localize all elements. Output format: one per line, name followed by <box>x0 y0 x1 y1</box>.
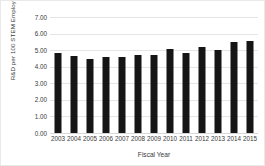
y-axis-tick-label: 3.00 <box>21 80 47 87</box>
bar-slot <box>194 17 210 133</box>
bar[interactable] <box>87 59 94 133</box>
bar[interactable] <box>71 56 78 133</box>
bar[interactable] <box>183 53 190 133</box>
chart-figure: R&D per 100 STEM Employees - DOI 0.001.0… <box>0 0 265 166</box>
bar[interactable] <box>135 55 142 133</box>
x-axis-title: Fiscal Year <box>50 151 258 158</box>
gridline <box>50 133 258 134</box>
bar[interactable] <box>103 57 110 133</box>
bar-slot <box>242 17 258 133</box>
bar-slot <box>66 17 82 133</box>
y-axis-tick-label: 4.00 <box>21 63 47 70</box>
x-axis-tick-label: 2010 <box>163 135 177 143</box>
x-axis-tick-label: 2015 <box>243 135 257 143</box>
x-axis-tick-label: 2014 <box>227 135 241 143</box>
bar-slot <box>226 17 242 133</box>
bar[interactable] <box>247 41 254 133</box>
bar-slot <box>130 17 146 133</box>
bar-slot <box>210 17 226 133</box>
x-axis-tick-label: 2005 <box>83 135 97 143</box>
y-axis-tick-label: 2.00 <box>21 96 47 103</box>
bar[interactable] <box>231 42 238 133</box>
x-axis-tick-label: 2007 <box>115 135 129 143</box>
x-axis-tick-label: 2009 <box>147 135 161 143</box>
x-axis-tick-label: 2006 <box>99 135 113 143</box>
x-axis-tick-label: 2003 <box>51 135 65 143</box>
y-axis-title: R&D per 100 STEM Employees - DOI <box>7 0 19 87</box>
bar-slot <box>178 17 194 133</box>
plot-area <box>50 17 258 133</box>
x-axis-tick-label: 2012 <box>195 135 209 143</box>
bar-slot <box>162 17 178 133</box>
y-axis-tick-label: 0.00 <box>21 130 47 137</box>
bar[interactable] <box>151 55 158 133</box>
y-axis-tick-label: 1.00 <box>21 113 47 120</box>
bar-series <box>50 17 258 133</box>
bar[interactable] <box>199 47 206 133</box>
x-axis-tick-label: 2013 <box>211 135 225 143</box>
bar-slot <box>146 17 162 133</box>
bar[interactable] <box>119 57 126 133</box>
bar[interactable] <box>167 49 174 133</box>
x-axis-tick-labels: 2003200420052006200720082009201020112012… <box>50 135 258 145</box>
bar-slot <box>82 17 98 133</box>
y-axis-tick-label: 6.00 <box>21 30 47 37</box>
x-axis-tick-label: 2011 <box>179 135 193 143</box>
x-axis-tick-label: 2004 <box>67 135 81 143</box>
bar-slot <box>98 17 114 133</box>
bar[interactable] <box>215 50 222 133</box>
y-axis-tick-label: 7.00 <box>21 14 47 21</box>
bar[interactable] <box>55 53 62 133</box>
x-axis-tick-label: 2008 <box>131 135 145 143</box>
y-axis-tick-label: 5.00 <box>21 47 47 54</box>
bar-slot <box>50 17 66 133</box>
y-axis-tick-labels: 0.001.002.003.004.005.006.007.00 <box>21 1 47 166</box>
bar-slot <box>114 17 130 133</box>
